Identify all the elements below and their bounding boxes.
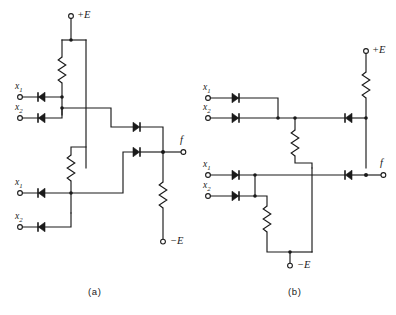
diode-a-or-upper — [133, 122, 140, 132]
label-a-x1-lower: x1 — [15, 178, 23, 190]
diode-b-x1-lower — [232, 170, 239, 180]
circuit-schematic-canvas — [0, 0, 396, 315]
circuit-a — [18, 14, 186, 244]
label-a-minus-e: −E — [170, 236, 184, 247]
wire-b-r3-bottom-lead — [267, 232, 290, 252]
caption-b: (b) — [288, 287, 301, 297]
label-b-x1-upper: x1 — [203, 83, 211, 95]
terminal-b-x2-lower[interactable] — [206, 194, 211, 199]
wire-a-x2-lower — [22, 213, 71, 227]
terminal-a-x1-lower[interactable] — [18, 191, 23, 196]
resistor-a-r2 — [67, 155, 75, 181]
circuit-b — [206, 49, 386, 268]
diode-b-x2-upper — [232, 113, 239, 123]
wire-a-or-upper-out — [140, 127, 163, 152]
label-a-x2-lower: x2 — [15, 212, 23, 224]
resistor-b-r3 — [263, 206, 271, 232]
node-b-upper-x-tie — [276, 116, 280, 120]
diode-a-or-lower — [133, 147, 140, 157]
terminal-a-output-f[interactable] — [181, 150, 186, 155]
label-b-x2-lower: x2 — [203, 181, 211, 193]
label-a-output-f: f — [180, 135, 183, 146]
terminal-a-minus-e[interactable] — [161, 239, 166, 244]
label-a-x2-upper: x2 — [15, 103, 23, 115]
node-b-lower-x1 — [253, 173, 257, 177]
resistor-a-r1 — [58, 57, 66, 83]
diode-a-x1-lower — [38, 188, 45, 198]
diode-b-x2-lower — [232, 191, 239, 201]
caption-a: (a) — [88, 287, 101, 297]
terminal-b-output-f[interactable] — [381, 173, 386, 178]
label-b-minus-e: −E — [297, 260, 311, 271]
wire-a-r2-top-lead — [71, 147, 86, 155]
wire-b-r2-bottom-jog — [295, 156, 312, 168]
diode-a-x2-upper — [38, 113, 45, 123]
resistor-b-r1 — [362, 72, 370, 98]
label-b-x2-upper: x2 — [203, 103, 211, 115]
terminal-a-x2-upper[interactable] — [18, 116, 23, 121]
terminal-b-x1-lower[interactable] — [206, 173, 211, 178]
label-a-plus-e: +E — [77, 10, 91, 21]
label-b-output-f: f — [380, 158, 383, 169]
diode-b-or-upper — [345, 113, 352, 123]
wire-b-x1-upper — [210, 98, 278, 118]
terminal-a-x2-lower[interactable] — [18, 225, 23, 230]
diode-a-x2-lower — [38, 222, 45, 232]
terminal-b-x1-upper[interactable] — [206, 96, 211, 101]
wire-a-lower-to-or — [71, 152, 133, 193]
wire-b-r3-top-lead — [255, 196, 267, 206]
resistor-a-r3 — [159, 182, 167, 208]
resistor-b-r2 — [291, 130, 299, 156]
diode-b-x1-upper — [232, 93, 239, 103]
terminal-b-x2-upper[interactable] — [206, 116, 211, 121]
figure-root: +E x1 x2 x1 x2 f −E (a) +E x1 x2 x1 x2 f… — [0, 0, 396, 315]
wire-a-upper-to-or — [62, 108, 133, 127]
terminal-b-plus-e[interactable] — [364, 49, 369, 54]
label-a-x1-upper: x1 — [15, 82, 23, 94]
label-b-plus-e: +E — [372, 45, 386, 56]
diode-b-or-lower — [345, 170, 352, 180]
diode-a-x1-upper — [38, 92, 45, 102]
terminal-a-x1-upper[interactable] — [18, 95, 23, 100]
terminal-b-minus-e[interactable] — [288, 263, 293, 268]
terminal-a-plus-e[interactable] — [69, 14, 74, 19]
label-b-x1-lower: x1 — [203, 160, 211, 172]
